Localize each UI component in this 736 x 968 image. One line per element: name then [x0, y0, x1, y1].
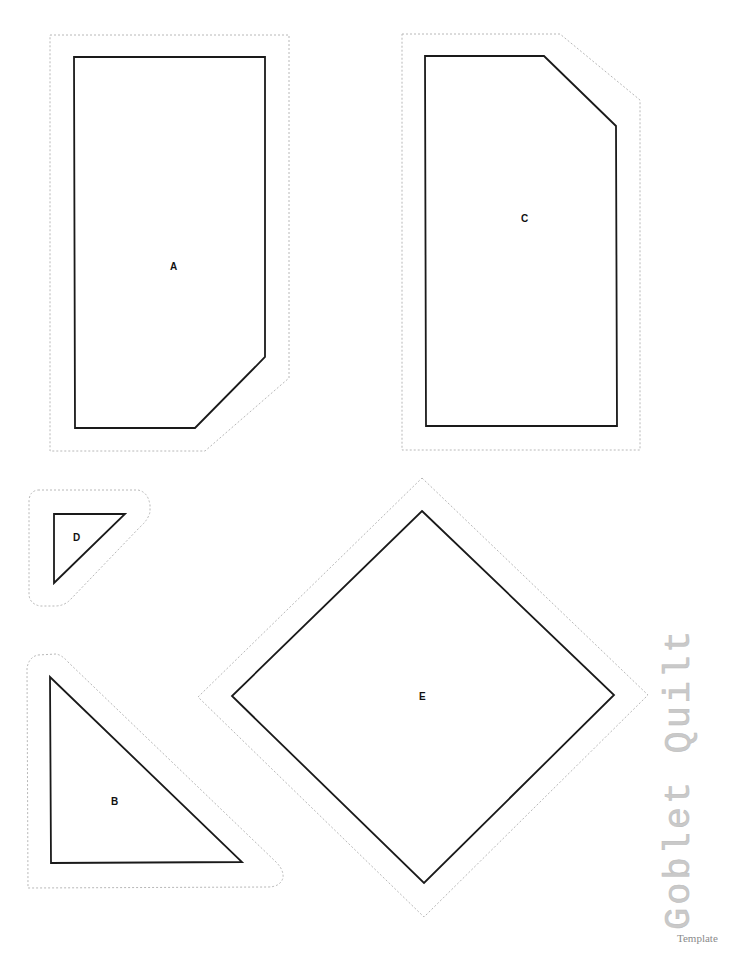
piece-a-label: A [170, 261, 177, 272]
piece-e: E [198, 478, 648, 917]
piece-d-label: D [73, 532, 80, 543]
piece-e-label: E [419, 691, 426, 702]
piece-a: A [50, 35, 289, 451]
piece-c-cutting-line [402, 34, 640, 450]
piece-b-cutting-line [27, 654, 283, 888]
piece-b: B [27, 654, 283, 888]
document-title: Goblet Quilt [658, 628, 700, 930]
piece-b-sewing-line [50, 677, 242, 863]
piece-a-cutting-line [50, 35, 289, 451]
piece-d: D [29, 490, 150, 606]
piece-c: C [402, 34, 640, 450]
piece-c-label: C [521, 213, 528, 224]
piece-d-sewing-line [54, 514, 125, 583]
template-sheet: A C D B E [0, 0, 736, 968]
piece-a-sewing-line [74, 57, 265, 428]
piece-c-sewing-line [425, 56, 617, 426]
piece-b-label: B [111, 796, 118, 807]
document-subtitle: Template [677, 932, 718, 944]
